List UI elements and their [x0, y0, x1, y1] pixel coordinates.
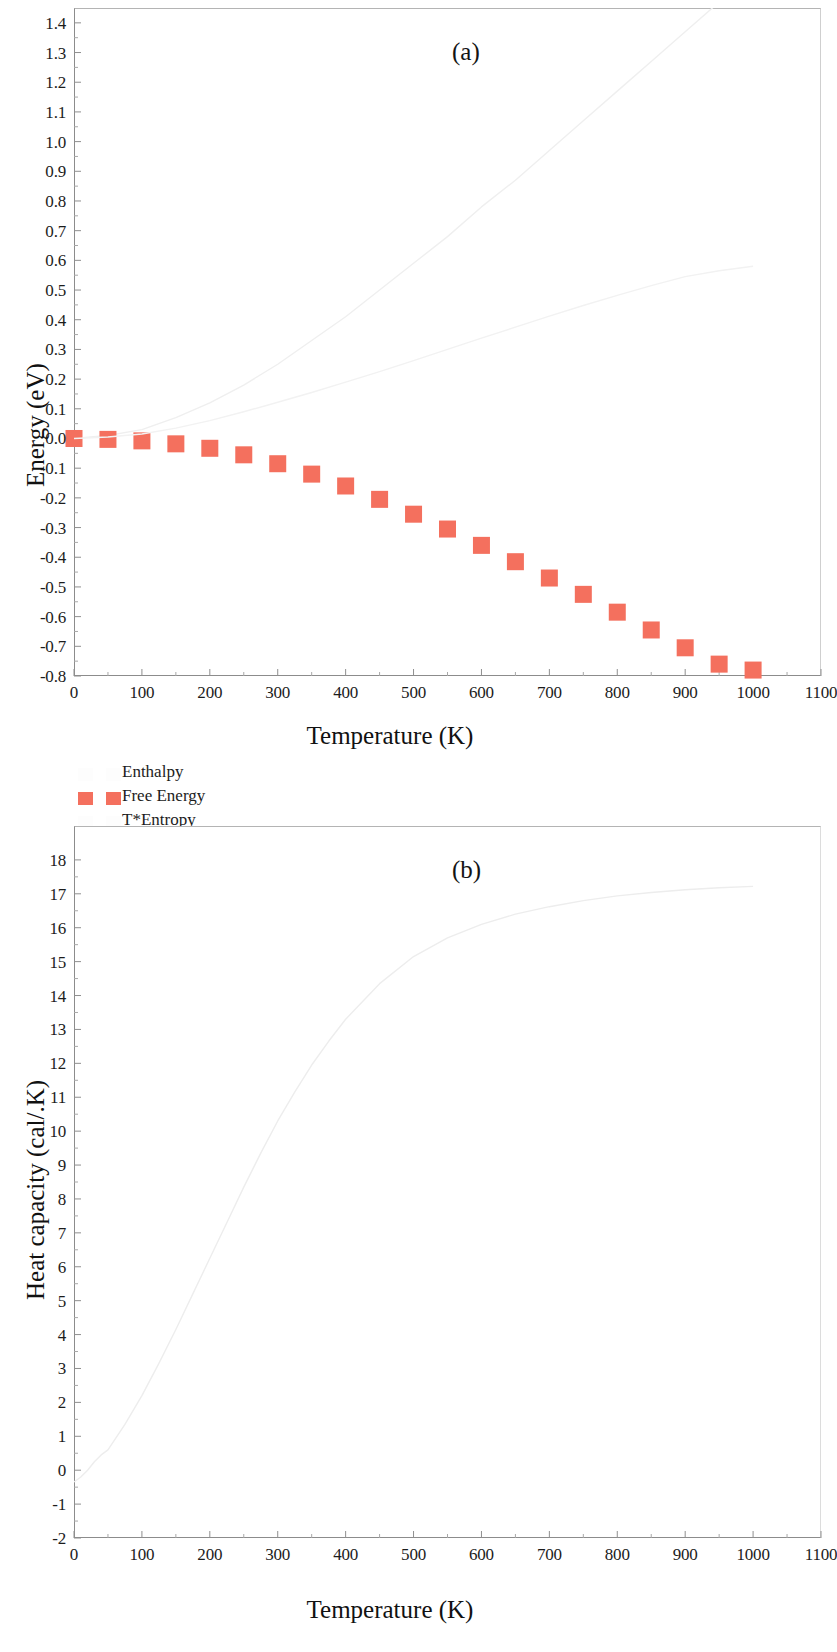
data-marker: [235, 446, 252, 463]
y-tick-label: 18: [10, 851, 66, 868]
y-tick-label: 3: [10, 1360, 66, 1377]
y-tick-label: 1: [10, 1428, 66, 1445]
x-tick-label: 1100: [805, 1546, 837, 1563]
y-tick-label: 13: [10, 1021, 66, 1038]
panel-a-letter: (a): [452, 38, 480, 66]
y-tick-label: 6: [10, 1258, 66, 1275]
x-tick-label: 500: [401, 684, 426, 701]
legend-item: Enthalpy: [34, 762, 364, 786]
panel-b-plot-area: [74, 826, 821, 1538]
series-t-entropy: [74, 266, 753, 438]
panel-b-x-axis-title: Temperature (K): [230, 1596, 550, 1624]
y-tick-label: 0.6: [10, 252, 66, 269]
y-tick-label: -0.1: [10, 460, 66, 477]
data-marker: [745, 662, 762, 679]
series-free-energy: [66, 430, 762, 679]
series-enthalpy: [74, 0, 753, 438]
y-tick-label: -0.2: [10, 489, 66, 506]
y-tick-label: -0.3: [10, 519, 66, 536]
data-marker: [99, 431, 116, 448]
data-marker: [439, 521, 456, 538]
x-tick-label: 1000: [736, 1546, 769, 1563]
data-marker: [405, 506, 422, 523]
data-marker: [575, 586, 592, 603]
y-tick-label: 8: [10, 1190, 66, 1207]
x-tick-label: 600: [469, 1546, 494, 1563]
x-tick-label: 300: [265, 684, 290, 701]
y-tick-label: 0.8: [10, 192, 66, 209]
y-tick-label: 0.2: [10, 371, 66, 388]
y-tick-label: 1.4: [10, 14, 66, 31]
y-tick-label: -2: [10, 1530, 66, 1547]
y-tick-label: 0.3: [10, 341, 66, 358]
data-marker: [201, 440, 218, 457]
data-marker: [541, 570, 558, 587]
x-tick-label: 1100: [805, 684, 837, 701]
data-marker: [473, 537, 490, 554]
panel-b-letter: (b): [452, 856, 481, 884]
x-tick-label: 800: [605, 684, 630, 701]
legend-item-label: Enthalpy: [122, 762, 183, 782]
panel-a-container: (a) Energy (eV) Temperature (K) 1.41.31.…: [0, 0, 823, 800]
y-tick-label: 1.3: [10, 44, 66, 61]
y-tick-label: 14: [10, 987, 66, 1004]
y-tick-label: -0.5: [10, 578, 66, 595]
data-line: [74, 0, 753, 438]
x-tick-label: 900: [673, 1546, 698, 1563]
x-tick-label: 1000: [736, 684, 769, 701]
y-tick-label: -1: [10, 1496, 66, 1513]
y-tick-label: 0.1: [10, 400, 66, 417]
data-line: [74, 266, 753, 438]
y-tick-label: 0.4: [10, 311, 66, 328]
y-tick-label: 5: [10, 1292, 66, 1309]
x-tick-label: 100: [129, 684, 154, 701]
y-tick-label: -0.7: [10, 638, 66, 655]
panel-b-container: (b) Heat capacity (cal/.K) Temperature (…: [0, 800, 823, 1652]
y-tick-label: 16: [10, 919, 66, 936]
y-tick-label: 1.1: [10, 103, 66, 120]
data-marker: [711, 656, 728, 673]
x-tick-label: 0: [70, 684, 78, 701]
x-tick-label: 500: [401, 1546, 426, 1563]
data-marker: [371, 491, 388, 508]
data-marker: [303, 466, 320, 483]
x-tick-label: 800: [605, 1546, 630, 1563]
y-tick-label: 0.7: [10, 222, 66, 239]
y-tick-label: 0: [10, 1462, 66, 1479]
y-tick-label: 11: [10, 1089, 66, 1106]
data-marker: [167, 435, 184, 452]
series-heat-capacity: [74, 886, 753, 1482]
y-tick-label: -0.8: [10, 668, 66, 685]
y-tick-label: 7: [10, 1224, 66, 1241]
y-tick-label: 12: [10, 1055, 66, 1072]
legend-swatch-icon: [106, 768, 121, 781]
data-marker: [643, 621, 660, 638]
y-tick-label: -0.4: [10, 549, 66, 566]
panel-a-plot-area: [74, 8, 821, 676]
y-tick-label: 2: [10, 1394, 66, 1411]
x-tick-label: 0: [70, 1546, 78, 1563]
data-marker: [609, 604, 626, 621]
x-tick-label: 200: [197, 1546, 222, 1563]
y-tick-label: 1.2: [10, 74, 66, 91]
y-tick-label: -0.6: [10, 608, 66, 625]
y-tick-label: 0.9: [10, 163, 66, 180]
x-tick-label: 300: [265, 1546, 290, 1563]
y-tick-label: 0.5: [10, 282, 66, 299]
data-marker: [507, 553, 524, 570]
y-tick-label: 10: [10, 1123, 66, 1140]
x-tick-label: 900: [673, 684, 698, 701]
y-tick-label: 15: [10, 953, 66, 970]
x-tick-label: 400: [333, 684, 358, 701]
data-marker: [337, 477, 354, 494]
x-tick-label: 200: [197, 684, 222, 701]
x-tick-label: 100: [129, 1546, 154, 1563]
y-tick-label: 9: [10, 1157, 66, 1174]
data-marker: [677, 639, 694, 656]
x-tick-label: 400: [333, 1546, 358, 1563]
y-tick-label: 1.0: [10, 133, 66, 150]
y-tick-label: 4: [10, 1326, 66, 1343]
x-tick-label: 700: [537, 684, 562, 701]
y-tick-label: 17: [10, 885, 66, 902]
panel-a-data-layer: [74, 8, 821, 676]
